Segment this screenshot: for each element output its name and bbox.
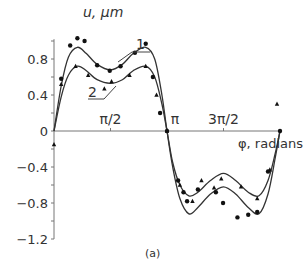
y-tick-label: 0 <box>40 124 48 139</box>
series-1-point <box>95 63 99 67</box>
series-2-point <box>190 199 194 203</box>
y-tick-label: 0.4 <box>27 88 48 103</box>
x-tick-label: π <box>171 111 180 127</box>
series-1-point <box>75 36 79 40</box>
axis-ticks: 0.80.40−0.4−0.8−1.2π/2π3π/2 <box>16 41 239 247</box>
x-axis-label: φ, radians <box>238 136 303 151</box>
series-1-point <box>221 201 225 205</box>
series-1-point <box>82 39 86 43</box>
series-1-point <box>235 215 239 219</box>
series-2-point <box>212 185 216 189</box>
y-axis-label: u, μm <box>83 4 123 20</box>
series-1-point <box>108 69 112 73</box>
series-2-point <box>219 176 223 180</box>
series-1-point <box>196 187 200 191</box>
series-1-point <box>68 43 72 47</box>
series-2-point <box>109 79 113 83</box>
series-1-point <box>255 210 259 214</box>
caption: (a) <box>145 247 160 260</box>
series-1-point <box>278 129 282 133</box>
series-2-label: 2 <box>88 84 97 100</box>
series-2-point <box>199 178 203 182</box>
series-1-point <box>59 77 63 81</box>
series-1-point <box>246 213 250 217</box>
series-2-point <box>52 142 56 146</box>
y-tick-label: 0.8 <box>27 52 48 67</box>
y-tick-label: −1.2 <box>16 232 48 247</box>
series-2-point <box>154 93 158 97</box>
series-1-point <box>181 190 185 194</box>
chart: 0.80.40−0.4−0.8−1.2π/2π3π/2 u, μm φ, rad… <box>0 0 308 278</box>
series-2-point <box>59 82 63 86</box>
y-tick-label: −0.4 <box>16 160 48 175</box>
series-2-leader-tail <box>104 86 116 99</box>
series-1-point <box>118 64 122 68</box>
series-1-point <box>158 111 162 115</box>
series-1-point <box>185 199 189 203</box>
series-1-point <box>176 178 180 182</box>
x-tick-label: π/2 <box>99 111 121 127</box>
x-tick-label: 3π/2 <box>208 111 239 127</box>
series-1-point <box>151 75 155 79</box>
series-1-label: 1 <box>136 36 145 52</box>
y-tick-label: −0.8 <box>16 196 48 211</box>
series-1-point <box>214 190 218 194</box>
series-2-point <box>102 86 106 90</box>
series-2-point <box>275 102 279 106</box>
